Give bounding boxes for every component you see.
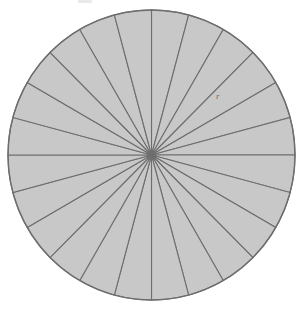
sector-circle-figure: r xyxy=(0,0,303,313)
sector-group xyxy=(8,10,295,300)
sector-circle-svg xyxy=(0,0,303,313)
radius-label: r xyxy=(216,92,220,101)
